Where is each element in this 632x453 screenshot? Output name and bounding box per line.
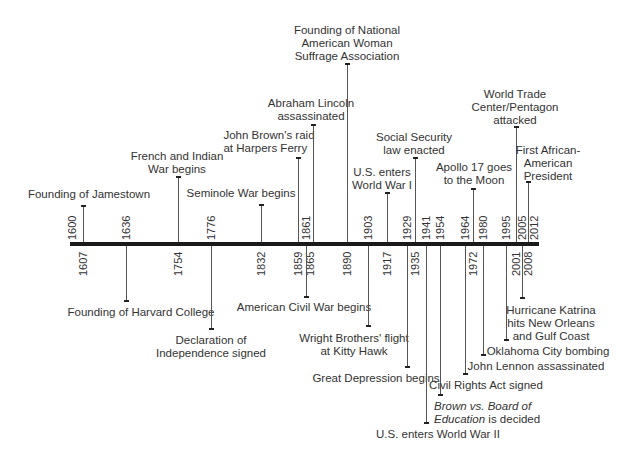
event-label-french-indian-war: French and Indian War begins: [131, 150, 224, 176]
year-label-1903: 1903: [363, 216, 374, 240]
tick-1865: [311, 242, 315, 246]
event-cap-apollo-17: [471, 188, 476, 190]
tick-2008: [526, 242, 530, 246]
event-cap-seminole-war: [259, 204, 264, 206]
event-line-harvard: [126, 246, 127, 301]
event-cap-jamestown: [81, 205, 86, 207]
event-cap-wright-brothers: [366, 325, 371, 327]
tick-1754: [176, 242, 180, 246]
tick-1600: [70, 242, 74, 246]
event-cap-social-security: [413, 157, 418, 159]
event-line-john-lennon: [483, 246, 484, 355]
event-line-declaration: [211, 246, 212, 329]
event-cap-hurricane-katrina: [520, 297, 525, 299]
year-label-1776: 1776: [206, 216, 217, 240]
year-label-2001: 2001: [511, 252, 522, 276]
event-label-first-african-american-president: First African- American President: [516, 144, 581, 183]
tick-2012: [535, 242, 539, 246]
event-cap-wwi: [385, 192, 390, 194]
event-cap-john-brown-raid: [296, 157, 301, 159]
event-line-first-african-american-president: [528, 182, 529, 242]
event-line-john-brown-raid: [298, 158, 299, 242]
event-line-social-security: [415, 158, 416, 242]
year-label-1964: 1964: [460, 216, 471, 240]
year-label-1607: 1607: [78, 252, 89, 276]
event-label-john-brown-raid: John Brown's raid at Harpers Ferry: [223, 129, 314, 155]
year-label-1941: 1941: [421, 216, 432, 240]
event-cap-wwii: [424, 422, 429, 424]
year-label-1972: 1972: [468, 252, 479, 276]
tick-1890: [345, 242, 349, 246]
tick-1859: [296, 242, 300, 246]
event-label-apollo-17: Apollo 17 goes to the Moon: [436, 161, 512, 187]
event-label-civil-rights-act: Civil Rights Act signed: [429, 379, 543, 392]
event-label-wwii: U.S. enters World War II: [376, 428, 500, 441]
event-cap-great-depression: [405, 366, 410, 368]
event-line-great-depression: [407, 246, 408, 367]
event-cap-john-lennon: [481, 354, 486, 356]
tick-1607: [81, 242, 85, 246]
event-label-civil-war: American Civil War begins: [237, 301, 371, 314]
tick-2001: [514, 242, 518, 246]
event-line-civil-rights-act: [465, 246, 466, 374]
event-cap-nawsa: [345, 63, 350, 65]
year-label-1935: 1935: [410, 252, 421, 276]
event-line-hurricane-katrina: [522, 246, 523, 298]
year-label-1859: 1859: [293, 252, 304, 276]
event-line-civil-war: [306, 246, 307, 297]
event-label-jamestown: Founding of Jamestown: [28, 188, 150, 201]
event-line-seminole-war: [261, 205, 262, 242]
tick-1972: [471, 242, 475, 246]
tick-1935: [413, 242, 417, 246]
event-label-wwi: U.S. enters World War I: [352, 166, 412, 192]
event-line-jamestown: [83, 206, 84, 242]
event-label-harvard: Founding of Harvard College: [67, 306, 214, 319]
event-line-wright-brothers: [368, 246, 369, 326]
event-label-lincoln-assassinated: Abraham Lincoln assassinated: [268, 97, 354, 123]
tick-1917: [385, 242, 389, 246]
event-cap-french-indian-war: [176, 176, 181, 178]
event-label-seminole-war: Seminole War begins: [187, 187, 296, 200]
event-cap-civil-rights-act: [463, 373, 468, 375]
year-label-1861: 1861: [301, 216, 312, 240]
event-line-wwii: [426, 246, 427, 423]
event-label-nawsa: Founding of National American Woman Suff…: [294, 24, 400, 63]
year-label-1954: 1954: [435, 216, 446, 240]
event-label-brown-vs-board: Brown vs. Board of Education is decided: [434, 400, 540, 426]
timeline-diagram: 1600 1636 1776 1861 1903 1929 1941 1954 …: [0, 0, 632, 453]
event-cap-civil-war: [304, 296, 309, 298]
event-line-apollo-17: [473, 189, 474, 242]
event-label-wright-brothers: Wright Brothers' flight at Kitty Hawk: [299, 332, 408, 358]
event-cap-declaration: [209, 328, 214, 330]
event-line-brown-vs-board: [440, 246, 441, 395]
event-label-wtc-attacked: World Trade Center/Pentagon attacked: [472, 88, 559, 127]
year-label-1600: 1600: [67, 216, 78, 240]
year-label-2012: 2012: [529, 216, 540, 240]
event-line-wwi: [387, 193, 388, 242]
year-label-1832: 1832: [256, 252, 267, 276]
year-label-1980: 1980: [478, 216, 489, 240]
event-line-nawsa: [347, 64, 348, 242]
year-label-1890: 1890: [342, 252, 353, 276]
event-label-social-security: Social Security law enacted: [376, 131, 452, 157]
event-label-oklahoma-city-bombing: Oklahoma City bombing: [487, 345, 610, 358]
year-label-1636: 1636: [121, 216, 132, 240]
year-label-2008: 2008: [523, 252, 534, 276]
year-label-1754: 1754: [173, 252, 184, 276]
year-label-1917: 1917: [382, 252, 393, 276]
event-cap-harvard: [124, 300, 129, 302]
year-label-1929: 1929: [402, 216, 413, 240]
year-label-1995: 1995: [501, 216, 512, 240]
event-line-french-indian-war: [178, 177, 179, 242]
event-label-declaration: Declaration of Independence signed: [156, 334, 266, 360]
tick-1832: [259, 242, 263, 246]
event-label-great-depression: Great Depression begins: [312, 372, 439, 385]
event-line-lincoln-assassinated: [313, 125, 314, 242]
event-label-hurricane-katrina: Hurricane Katrina hits New Orleans and G…: [506, 304, 595, 343]
event-cap-brown-vs-board: [438, 394, 443, 396]
event-cap-lincoln-assassinated: [311, 124, 316, 126]
year-label-2005: 2005: [517, 216, 528, 240]
event-label-john-lennon: John Lennon assassinated: [468, 360, 605, 373]
